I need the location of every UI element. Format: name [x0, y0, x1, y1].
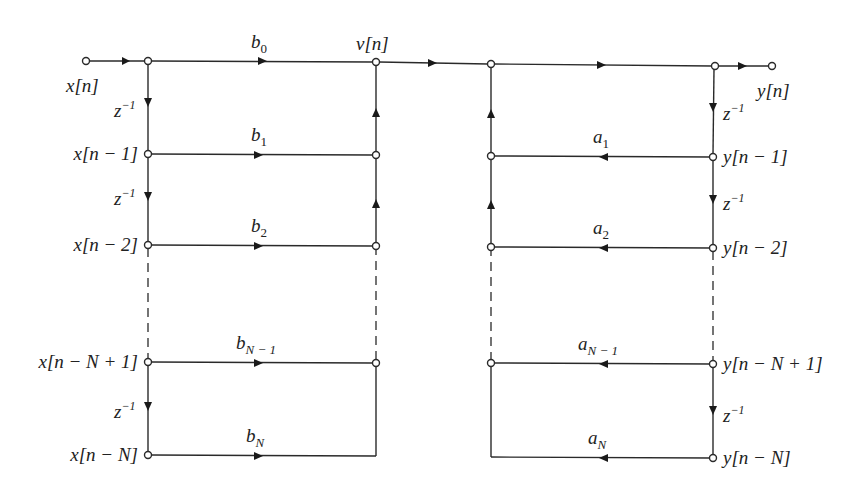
arrow-left-icon [599, 360, 608, 368]
arrow-down-icon [144, 402, 152, 411]
label-y-n-2: y[n − 2] [721, 237, 788, 258]
arrow-right-icon [254, 151, 263, 159]
node-x-n [145, 58, 152, 65]
label-x-n-1: x[n − 1] [72, 143, 138, 164]
arrow-right-icon [258, 57, 267, 65]
coef-a1: a1 [593, 126, 609, 151]
node-x-n-2 [145, 242, 152, 249]
node-fb-1 [488, 153, 495, 160]
label-y-n-N: y[n − N] [721, 447, 791, 468]
node-fb-N-1 [488, 360, 495, 367]
feedforward-branches [151, 151, 376, 460]
arrow-down-icon [709, 195, 717, 204]
label-x-n-N+1: x[n − N + 1] [37, 351, 138, 372]
arrow-down-icon [709, 103, 717, 112]
coef-bN-1: bN − 1 [236, 332, 276, 357]
coef-b0: b0 [251, 31, 267, 56]
feedforward-delay-chain [144, 64, 152, 452]
node-y-n-N [710, 455, 717, 462]
delay-label: z−1 [722, 191, 745, 214]
node-fb-top [488, 61, 495, 68]
arrow-left-icon [599, 244, 608, 252]
coef-b2: b2 [251, 215, 267, 240]
node-x-n-1 [145, 151, 152, 158]
arrow-up-icon [372, 199, 380, 208]
delay-label: z−1 [113, 186, 136, 209]
signal-flow-diagram: x[n] x[n − 1] x[n − 2] x[n − N + 1] x[n … [0, 0, 855, 496]
delay-label: z−1 [722, 403, 745, 426]
arrow-right-icon [597, 61, 606, 69]
coef-b1: b1 [251, 124, 267, 149]
feedback-delay-chain [709, 69, 717, 455]
coef-a2: a2 [593, 217, 609, 242]
arrow-down-icon [144, 98, 152, 107]
node-sum-N-1 [373, 360, 380, 367]
label-v-n: v[n] [356, 33, 389, 54]
node-y-n-1 [710, 154, 717, 161]
feedforward-coefficients: b0 b1 b2 bN − 1 bN [236, 31, 276, 450]
label-y-n-N+1: y[n − N + 1] [721, 353, 823, 374]
delay-label: z−1 [113, 98, 136, 121]
node-sum-1 [373, 152, 380, 159]
coef-bN: bN [246, 425, 266, 450]
node-y-n [712, 63, 719, 70]
delay-label: z−1 [113, 399, 136, 422]
label-x-n-2: x[n − 2] [72, 234, 138, 255]
arrow-right-icon [254, 452, 263, 460]
arrow-right-icon [428, 59, 437, 67]
node-x-n-N+1 [145, 359, 152, 366]
arrow-up-icon [487, 109, 495, 118]
nodes [83, 58, 776, 462]
label-input: x[n] [65, 75, 99, 96]
delay-label: z−1 [722, 101, 745, 124]
node-fb-2 [488, 244, 495, 251]
node-y-n-N+1 [710, 361, 717, 368]
label-x-n-N: x[n − N] [69, 444, 138, 465]
main-path [89, 57, 769, 70]
delay-labels: z−1 z−1 z−1 z−1 z−1 z−1 [113, 98, 745, 426]
input-node [83, 58, 90, 65]
node-v-n [373, 59, 380, 66]
arrow-left-icon [599, 454, 608, 462]
arrow-down-icon [709, 406, 717, 415]
label-y-n-1: y[n − 1] [721, 146, 788, 167]
node-x-n-N [145, 452, 152, 459]
output-node [769, 63, 776, 70]
feedback-branches [491, 153, 710, 462]
arrow-up-icon [487, 200, 495, 209]
feedback-coefficients: a1 a2 aN − 1 aN [578, 126, 618, 452]
arrow-right-icon [254, 359, 263, 367]
label-output: y[n] [755, 80, 790, 101]
node-sum-2 [373, 243, 380, 250]
feedforward-sum-column [372, 65, 380, 456]
node-y-n-2 [710, 245, 717, 252]
arrow-right-icon [254, 242, 263, 250]
arrow-right-icon [738, 62, 747, 70]
arrow-left-icon [599, 153, 608, 161]
arrow-down-icon [144, 192, 152, 201]
arrow-right-icon [122, 57, 130, 65]
coef-aN-1: aN − 1 [578, 333, 618, 358]
feedback-sum-column [487, 67, 495, 457]
arrow-up-icon [372, 108, 380, 117]
coef-aN: aN [588, 427, 608, 452]
